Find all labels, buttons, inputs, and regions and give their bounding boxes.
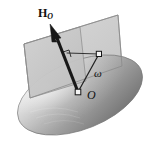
angular-momentum-symbol: H — [38, 6, 47, 20]
mechanics-diagram-svg — [0, 0, 151, 151]
angular-velocity-label: ω — [94, 68, 102, 79]
omega-point-marker — [96, 51, 101, 56]
origin-point-label: O — [87, 89, 96, 101]
angular-momentum-label: HO — [38, 7, 53, 21]
angular-momentum-subscript: O — [47, 12, 53, 21]
figure-root: HO ω O — [0, 0, 151, 151]
origin-point-marker — [75, 89, 81, 95]
